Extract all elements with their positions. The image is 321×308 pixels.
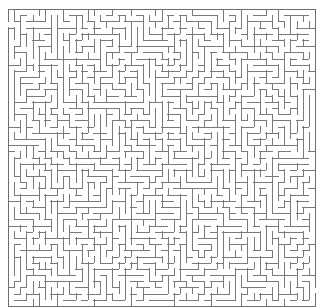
maze-figure: Rectangular perfect maze [0,0,321,308]
maze-graphic [0,0,321,308]
